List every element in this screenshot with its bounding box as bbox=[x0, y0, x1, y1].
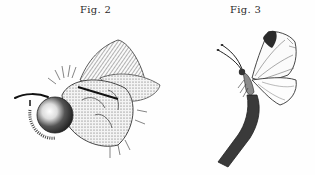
illustrations-canvas bbox=[0, 0, 315, 175]
butterfly-illustration bbox=[217, 31, 297, 167]
fly-illustration bbox=[15, 40, 160, 158]
illustration-plate: Fig. 2 Fig. 3 bbox=[0, 0, 315, 175]
